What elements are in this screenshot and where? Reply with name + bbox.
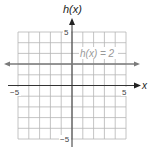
x-axis-label: x xyxy=(141,80,148,91)
y-min-tick-label: −5 xyxy=(60,135,70,144)
x-max-tick-label: 5 xyxy=(122,88,127,97)
y-axis-arrow-icon xyxy=(69,18,75,25)
x-min-tick-label: −5 xyxy=(10,88,20,97)
x-axis-arrow-icon xyxy=(134,83,141,89)
line-label: h(x) = 2 xyxy=(80,48,115,59)
line-left-arrow-icon xyxy=(4,62,10,67)
line-right-arrow-icon xyxy=(134,62,140,67)
function-graph: h(x) = 2 h(x) x 5 −5 −5 5 xyxy=(0,0,150,153)
y-axis-label: h(x) xyxy=(63,3,82,15)
y-max-tick-label: 5 xyxy=(64,28,69,37)
